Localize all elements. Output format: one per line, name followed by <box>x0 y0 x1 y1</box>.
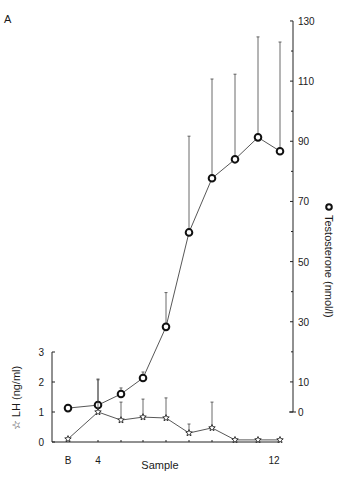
testosterone-point-icon <box>232 156 239 163</box>
lh-series <box>65 379 283 443</box>
left-axis-tick-label: 1 <box>38 407 44 418</box>
testosterone-point-icon <box>118 391 125 398</box>
testosterone-axis-title: Testosterone (nmol/l) <box>323 215 335 318</box>
lh-star-point-icon <box>186 430 192 436</box>
lh-star-point-icon <box>118 417 124 423</box>
lh-star-point-icon <box>209 425 215 431</box>
testosterone-point-icon <box>186 229 193 236</box>
right-axis-tick-label: 130 <box>298 16 315 27</box>
testosterone-point-icon <box>140 375 147 382</box>
testosterone-point-icon <box>255 134 262 141</box>
lh-axis-title: ☆ LH (ng/ml) <box>10 366 22 430</box>
right-axis: 01030507090110130 <box>289 16 315 418</box>
left-axis-label: ☆ LH (ng/ml) <box>10 366 22 430</box>
testosterone-line <box>68 137 280 408</box>
x-axis-tick-label: 4 <box>95 455 101 466</box>
right-axis-tick-label: 10 <box>298 377 310 388</box>
right-axis-tick-label: 30 <box>298 317 310 328</box>
right-axis-tick-label: 0 <box>298 407 304 418</box>
testosterone-legend-marker-icon <box>326 204 332 210</box>
testosterone-point-icon <box>277 148 284 155</box>
testosterone-point-icon <box>65 405 72 412</box>
panel-label: A <box>4 13 12 25</box>
left-axis-tick-label: 2 <box>38 377 44 388</box>
x-axis-label: Sample <box>141 459 178 471</box>
right-axis-label: Testosterone (nmol/l) <box>323 204 335 318</box>
right-axis-tick-label: 90 <box>298 136 310 147</box>
left-axis-tick-label: 3 <box>38 347 44 358</box>
right-axis-tick-label: 50 <box>298 257 310 268</box>
testosterone-point-icon <box>209 175 216 182</box>
chart: A 0123 01030507090110130 B412 Sample ☆ L… <box>0 0 344 481</box>
x-axis-tick-label: 12 <box>268 455 280 466</box>
testosterone-point-icon <box>163 324 170 331</box>
lh-line <box>68 412 280 440</box>
testosterone-series <box>65 37 284 411</box>
x-axis-tick-label: B <box>65 455 72 466</box>
right-axis-tick-label: 70 <box>298 196 310 207</box>
left-axis-tick-label: 0 <box>38 437 44 448</box>
lh-star-point-icon <box>140 414 146 420</box>
right-axis-tick-label: 110 <box>298 76 314 87</box>
left-axis: 0123 <box>38 347 55 448</box>
